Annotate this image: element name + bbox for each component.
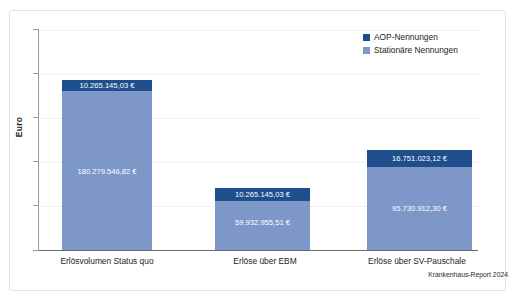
y-axis-tick (33, 161, 39, 162)
legend-swatch-aop (363, 34, 370, 41)
bar-label-aop: 10.265.145,03 € (62, 81, 152, 90)
y-axis-tick (33, 29, 39, 30)
bar-erloesvolumen-status-quo[interactable]: 10.265.145,03 € 180.279.546,82 € (62, 80, 152, 251)
bar-segment-stationaer (62, 80, 152, 251)
bar-label-stationaer: 180.279.546,82 € (62, 167, 152, 176)
y-axis-label: Euro (14, 97, 24, 157)
bar-label-aop: 10.265.145,03 € (215, 190, 310, 199)
y-axis-tick (33, 73, 39, 74)
y-axis-tick (33, 250, 39, 251)
x-axis-line (38, 250, 478, 251)
gridline (38, 74, 478, 75)
source-note: Krankenhaus-Report 2024 (428, 271, 508, 278)
bar-erloese-ueber-ebm[interactable]: 10.265.145,03 € 59.932.955,51 € (215, 188, 310, 251)
bar-erloese-ueber-sv-pauschale[interactable]: 16.751.023,12 € 95.730.912,30 € (367, 150, 472, 251)
legend-label-stationaer: Stationäre Nennungen (374, 45, 458, 55)
y-axis-tick (33, 205, 39, 206)
legend-item-aop[interactable]: AOP-Nennungen (363, 32, 458, 42)
x-axis-category-label-0: Erlösvolumen Status quo (17, 256, 197, 266)
gridline (38, 30, 478, 31)
plot-area: 10.265.145,03 € 180.279.546,82 € 10.265.… (38, 30, 478, 251)
legend-item-stationaer[interactable]: Stationäre Nennungen (363, 45, 458, 55)
x-axis-category-label-2: Erlöse über SV-Pauschale (327, 256, 507, 266)
chart-figure: 10.265.145,03 € 180.279.546,82 € 10.265.… (0, 0, 518, 308)
bar-label-stationaer: 59.932.955,51 € (215, 218, 310, 227)
legend-swatch-stationaer (363, 47, 370, 54)
legend-label-aop: AOP-Nennungen (374, 32, 438, 42)
y-axis-line (38, 29, 39, 251)
bar-label-aop: 16.751.023,12 € (367, 154, 472, 163)
bar-label-stationaer: 95.730.912,30 € (367, 204, 472, 213)
legend: AOP-Nennungen Stationäre Nennungen (363, 32, 458, 58)
y-axis-tick (33, 117, 39, 118)
